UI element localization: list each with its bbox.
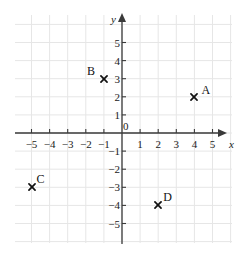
x-axis-tick-label: 5: [210, 139, 216, 150]
y-axis-tick-label: 2: [115, 91, 121, 102]
coordinate-plane-figure: −5−4−3−2−112345−5−4−3−2−112345 ABCD 0 x …: [0, 0, 248, 259]
x-axis-arrowhead: [218, 129, 227, 137]
point-label-c: C: [37, 173, 45, 185]
origin-label: 0: [123, 121, 129, 132]
y-axis-arrowhead: [118, 13, 126, 22]
y-axis-tick-label: 5: [115, 37, 121, 48]
y-axis-tick-label: −5: [108, 218, 120, 229]
point-label-a: A: [201, 84, 210, 96]
point-label-b: B: [87, 65, 95, 77]
y-axis-name-label: y: [111, 14, 116, 25]
x-axis-tick-label: 4: [192, 139, 198, 150]
x-axis-tick-label: −2: [80, 139, 92, 150]
y-axis-tick-label: −2: [108, 164, 120, 175]
x-axis-tick-label: 3: [174, 139, 180, 150]
y-axis-tick-label: −3: [108, 182, 120, 193]
y-axis-tick-label: −4: [108, 200, 120, 211]
x-axis-tick-label: 1: [137, 139, 143, 150]
y-axis-tick-label: 3: [115, 73, 121, 84]
point-marker-d: [154, 201, 163, 210]
point-marker-a: [190, 92, 199, 101]
x-axis-tick-label: −4: [44, 139, 56, 150]
y-axis-tick-label: 4: [115, 55, 121, 66]
x-axis-tick-label: 2: [155, 139, 161, 150]
y-axis-tick-label: 1: [115, 109, 121, 120]
x-axis-name-label: x: [229, 139, 234, 150]
point-marker-c: [27, 183, 36, 192]
x-axis-tick-label: −5: [26, 139, 38, 150]
y-axis-tick-label: −1: [108, 146, 120, 157]
point-marker-b: [99, 74, 108, 83]
x-axis-tick-label: −3: [62, 139, 74, 150]
point-label-d: D: [163, 191, 172, 203]
